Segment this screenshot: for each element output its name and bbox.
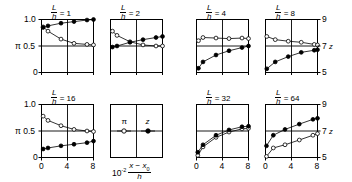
- panel-lh-4-series-0-marker: [247, 37, 251, 41]
- panel-lh-4-series-1-marker: [197, 66, 201, 70]
- legend-marker-0: [122, 129, 126, 133]
- panel-lh-2-series-1-marker: [161, 35, 165, 39]
- panel-lh-8-ylabel-r-mid: 7 z: [322, 42, 333, 51]
- panel-lh-1-series-1-marker: [41, 26, 45, 30]
- panel-lh-64-xlabel-2: 8: [315, 162, 320, 171]
- panel-lh-4-series-0-marker: [227, 37, 231, 41]
- panel-lh-8-series-1-marker: [286, 55, 290, 59]
- panel-lh-16-ylabel-bot: 0: [33, 153, 38, 162]
- panel-lh-16-series-0-marker: [46, 119, 50, 123]
- x-axis-label: 10-2x − x0h: [112, 162, 151, 182]
- panel-lh-2-series-1-marker: [128, 40, 132, 44]
- panel-lh-16-xlabel-2: 8: [91, 162, 96, 171]
- panel-lh-1-series-0-marker: [59, 37, 63, 41]
- panel-lh-8-series-1-marker: [316, 48, 320, 52]
- panel-lh-32-series-1-marker: [196, 150, 200, 154]
- panel-lh-16-xlabel-0: 0: [39, 162, 44, 171]
- panel-lh-1-series-0-marker: [92, 43, 96, 47]
- panel-lh-4-series-1-marker: [201, 60, 205, 64]
- panel-lh-2-series-0-marker: [111, 29, 115, 33]
- legend-label-0: π: [122, 118, 128, 126]
- panel-lh-8-ylabel-r-bot: 5: [322, 68, 327, 77]
- panel-lh-1-ylabel-bot: 0: [33, 68, 38, 77]
- panel-lh-8-series-0-marker: [286, 39, 290, 43]
- panel-lh-64-xlabel-1: 4: [289, 162, 294, 171]
- panel-lh-2-series-1-marker: [111, 45, 115, 49]
- panel-lh-16-ylabel-mid: π 0.5: [15, 127, 35, 136]
- panel-lh-2-series-1-marker: [141, 38, 145, 42]
- panel-lh-16-series-1-marker: [92, 139, 96, 143]
- panel-lh-4-series-1-marker: [240, 46, 244, 50]
- panel-lh-1-series-1-marker: [72, 20, 76, 24]
- panel-lh-32-xlabel-0: 0: [194, 162, 199, 171]
- panel-lh-8-series-1-marker: [265, 67, 269, 71]
- panel-lh-64-series-0-marker: [297, 138, 301, 142]
- panel-lh-16-title: Lh = 16: [51, 89, 75, 107]
- panel-lh-64-xlabel-0: 0: [263, 162, 268, 171]
- panel-lh-64: [265, 105, 321, 161]
- panel-lh-16-series-1-marker: [85, 141, 89, 145]
- panel-lh-4-series-1-marker: [227, 49, 231, 53]
- panel-lh-1-series-0-marker: [72, 41, 76, 45]
- panel-lh-4-series-0-marker: [201, 36, 205, 40]
- panel-lh-64-ylabel-r-top: 9: [322, 100, 327, 109]
- panel-lh-64-series-1-marker: [271, 133, 275, 137]
- panel-lh-64-series-1-marker: [316, 116, 320, 120]
- panel-lh-4-series-0-marker: [197, 39, 201, 43]
- panel-lh-2-series-0-marker: [115, 34, 119, 38]
- legend-marker-1: [146, 129, 150, 133]
- panel-lh-1-series-1-marker: [85, 18, 89, 22]
- panel-lh-16-series-1-marker: [41, 147, 45, 151]
- panel-lh-1-title: Lh = 1: [51, 4, 71, 22]
- panel-lh-32-series-1-marker: [240, 125, 244, 129]
- panel-lh-64-series-1-marker: [283, 128, 287, 132]
- panel-lh-64-series-1-marker: [265, 144, 269, 148]
- panel-lh-2-series-1-marker: [154, 36, 158, 40]
- panel-lh-8-title: Lh = 8: [275, 4, 295, 22]
- panel-lh-1-series-0-marker: [85, 43, 89, 47]
- panel-lh-2-series-0-marker: [161, 44, 165, 48]
- panel-lh-1-ylabel-mid: π 0.5: [15, 42, 35, 51]
- panel-lh-16-series-0-marker: [92, 130, 96, 134]
- panel-lh-16-series-0-marker: [85, 129, 89, 133]
- panel-lh-2-series-1-marker: [115, 44, 119, 48]
- panel-lh-2-series-0-marker: [154, 44, 158, 48]
- panel-lh-16-series-1-marker: [46, 146, 50, 150]
- panel-lh-32: [196, 105, 251, 161]
- panel-lh-2-series-0-marker: [141, 43, 145, 47]
- panel-lh-2: [111, 20, 165, 76]
- panel-lh-4-series-0-marker: [240, 36, 244, 40]
- panel-lh-32-series-1-marker: [247, 124, 251, 128]
- panel-lh-1-series-0-marker: [46, 29, 50, 33]
- panel-lh-64-series-0-marker: [271, 146, 275, 150]
- panel-lh-1-series-1-marker: [59, 21, 63, 25]
- panel-lh-64-series-1-marker: [311, 117, 315, 121]
- panel-lh-32-series-1-marker: [201, 143, 205, 147]
- panel-lh-1-ylabel-top: 1.0: [24, 15, 36, 24]
- panel-lh-64-series-1-marker: [297, 122, 301, 126]
- panel-lh-8-series-1-marker: [299, 50, 303, 54]
- panel-lh-64-series-0-marker: [311, 133, 315, 137]
- panel-lh-64-ylabel-r-bot: 5: [322, 153, 327, 162]
- panel-lh-16-series-0-marker: [59, 124, 63, 128]
- panel-lh-16-ylabel-top: 1.0: [24, 100, 36, 109]
- panel-lh-8-series-0-marker: [273, 38, 277, 42]
- panel-lh-4-title: Lh = 4: [206, 4, 226, 22]
- panel-lh-8-series-0-marker: [299, 40, 303, 44]
- panel-lh-4: [197, 20, 251, 76]
- panel-lh-32-title: Lh = 32: [206, 89, 230, 107]
- panel-lh-16-xlabel-1: 4: [65, 162, 70, 171]
- panel-lh-64-ylabel-r-mid: 7 z: [322, 127, 333, 136]
- panel-lh-1: [39, 18, 96, 75]
- panel-lh-32-series-1-marker: [214, 133, 218, 137]
- panel-lh-2-title: Lh = 2: [120, 4, 140, 22]
- panel-lh-64-title: Lh = 64: [275, 89, 299, 107]
- panel-lh-64-series-0-marker: [283, 143, 287, 147]
- panel-lh-4-series-1-marker: [247, 44, 251, 48]
- panel-lh-32-xlabel-1: 4: [220, 162, 225, 171]
- panel-lh-16-series-0-marker: [41, 114, 45, 118]
- panel-lh-4-series-1-marker: [214, 53, 218, 57]
- panel-lh-8: [265, 20, 321, 76]
- panel-lh-16-series-1-marker: [59, 144, 63, 148]
- panel-lh-16-series-1-marker: [72, 142, 76, 146]
